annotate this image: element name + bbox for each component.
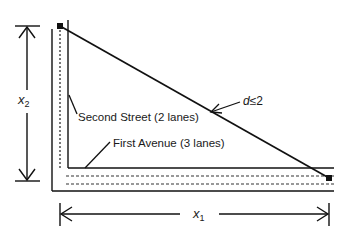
diagonal-d bbox=[60, 26, 329, 178]
distance-line bbox=[57, 23, 332, 181]
start-point-marker bbox=[57, 23, 63, 29]
end-point-marker bbox=[326, 175, 332, 181]
street-diagram: x2 d≤2 Second Street (2 lanes) First Ave… bbox=[0, 0, 347, 240]
d-callout: d≤2 bbox=[211, 94, 263, 113]
x2-label: x2 bbox=[17, 92, 30, 109]
second-street bbox=[52, 20, 68, 191]
x2-dimension: x2 bbox=[15, 26, 40, 181]
first-avenue bbox=[52, 168, 334, 191]
second-street-callout: Second Street (2 lanes) bbox=[69, 95, 199, 123]
second-street-leader bbox=[69, 95, 77, 114]
first-avenue-callout: First Avenue (3 lanes) bbox=[85, 137, 225, 168]
x1-dimension: x1 bbox=[60, 203, 329, 226]
first-avenue-leader bbox=[85, 142, 110, 168]
d-constraint-label: d≤2 bbox=[243, 94, 263, 108]
x1-label: x1 bbox=[192, 206, 205, 223]
second-street-label: Second Street (2 lanes) bbox=[78, 111, 199, 123]
first-avenue-label: First Avenue (3 lanes) bbox=[113, 137, 225, 149]
